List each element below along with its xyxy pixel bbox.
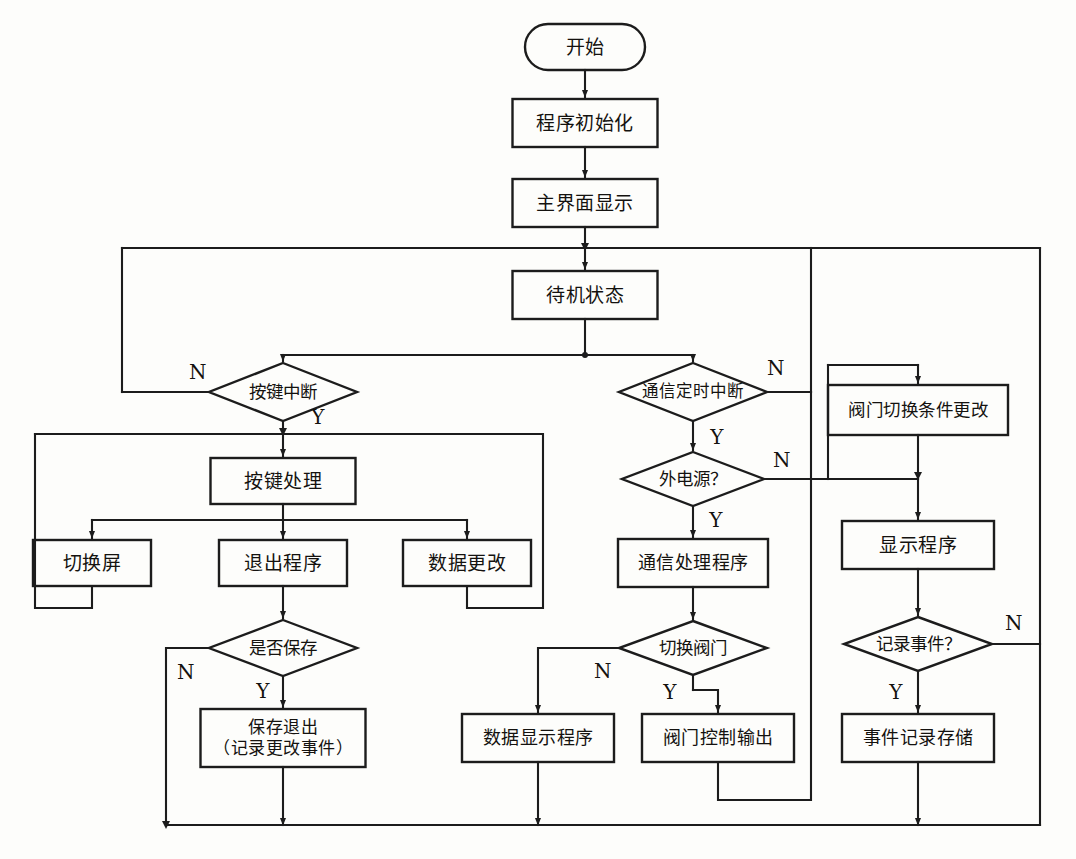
shape-datachange — [403, 540, 531, 586]
shape-init — [513, 99, 658, 147]
shape-saveexit — [201, 709, 366, 767]
shape-datadisplay — [462, 714, 614, 762]
shape-commproc — [618, 539, 768, 587]
flowchart-svg — [0, 0, 1076, 859]
shape-switchvalve — [619, 621, 767, 675]
edge-switchvalve-yes-b — [693, 690, 718, 712]
shape-switchscreen — [33, 540, 151, 586]
shape-standby — [513, 271, 658, 319]
shape-exitprog — [219, 540, 347, 586]
shape-valvecond — [828, 385, 1008, 435]
edge-switchvalve-no — [538, 648, 619, 712]
shape-dispprog — [842, 521, 994, 569]
shape-savequery — [209, 620, 357, 676]
shape-keyproc — [211, 458, 356, 504]
shape-recordstore — [842, 714, 994, 762]
shape-mainui — [513, 179, 658, 227]
shape-recordquery — [844, 617, 992, 671]
shape-keyint — [209, 363, 357, 421]
shape-valveout — [642, 714, 794, 762]
shape-start — [525, 24, 645, 70]
shape-commint — [619, 363, 767, 421]
flowchart-canvas: 开始 程序初始化 主界面显示 待机状态 按键中断 通信定时中断 按键处理 切换屏… — [0, 0, 1076, 859]
shape-extpower — [622, 452, 764, 506]
